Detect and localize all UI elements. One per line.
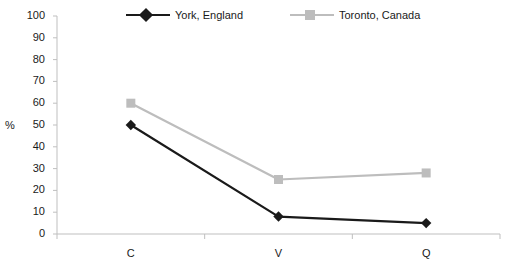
plot-canvas xyxy=(0,0,511,270)
data-point-marker xyxy=(126,120,136,130)
data-point-marker xyxy=(126,99,135,108)
data-point-marker xyxy=(421,218,431,228)
data-point-marker xyxy=(422,168,431,177)
data-point-marker xyxy=(273,211,283,221)
data-point-marker xyxy=(274,175,283,184)
series-toronto-canada xyxy=(126,99,430,184)
plot-area: % 0102030405060708090100 CVQ xyxy=(0,0,511,270)
line-chart: York, England Toronto, Canada % 01020304… xyxy=(0,0,511,270)
